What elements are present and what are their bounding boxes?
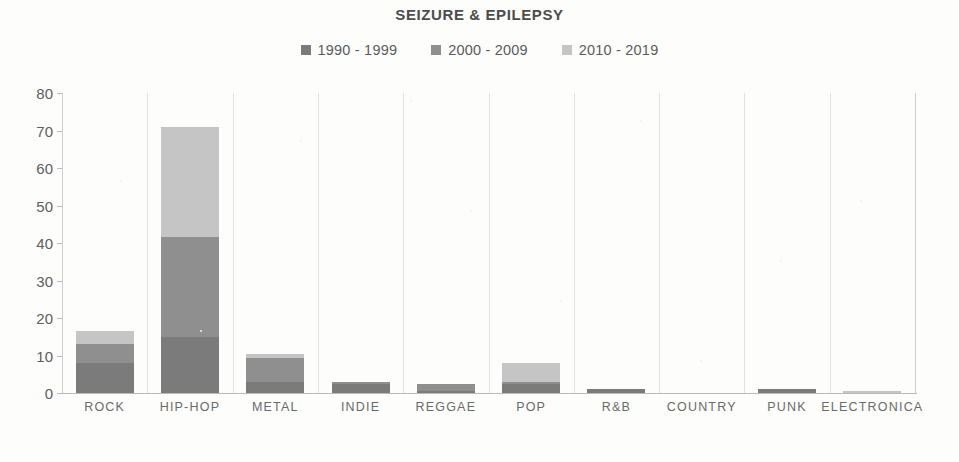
x-axis-label-rock: ROCK [84, 400, 125, 414]
gridline-vertical [659, 93, 660, 393]
bar-r-b[interactable] [587, 389, 645, 393]
gridline-vertical [744, 93, 745, 393]
chart-legend: 1990 - 1999 2000 - 2009 2010 - 2019 [0, 42, 959, 58]
y-axis-tick-mark [57, 93, 62, 94]
x-axis-label-hip-hop: HIP-HOP [160, 400, 221, 414]
y-axis-tick-mark [57, 393, 62, 394]
y-axis-tick-mark [57, 356, 62, 357]
bar-pop[interactable] [502, 363, 560, 393]
plot-area [62, 93, 915, 393]
gridline-vertical [233, 93, 234, 393]
x-axis-label-pop: POP [516, 400, 546, 414]
legend-swatch-icon [431, 45, 441, 55]
y-axis-tick-label: 10 [13, 347, 53, 364]
bar-segment [246, 358, 304, 382]
y-axis-tick-label: 70 [13, 122, 53, 139]
gridline-vertical [830, 93, 831, 393]
x-axis-label-country: COUNTRY [667, 400, 737, 414]
bar-segment [502, 382, 560, 384]
bar-segment [161, 337, 219, 393]
y-axis-tick-label: 80 [13, 85, 53, 102]
bar-segment [332, 382, 390, 384]
bar-segment [587, 389, 645, 393]
legend-label: 1990 - 1999 [318, 42, 398, 58]
x-axis-label-r-b: R&B [602, 400, 631, 414]
y-axis-tick-mark [57, 281, 62, 282]
y-axis-tick-label: 50 [13, 197, 53, 214]
bar-segment [76, 363, 134, 393]
gridline-vertical [147, 93, 148, 393]
gridline-vertical [489, 93, 490, 393]
bar-hip-hop[interactable] [161, 127, 219, 393]
y-axis-tick-mark [57, 206, 62, 207]
bar-segment [246, 382, 304, 393]
plot-right-border [915, 93, 916, 394]
y-axis-tick-label: 20 [13, 310, 53, 327]
bar-segment [76, 344, 134, 363]
x-axis-label-indie: INDIE [341, 400, 380, 414]
chart-title: SEIZURE & EPILEPSY [0, 6, 959, 23]
bar-segment [843, 391, 901, 393]
y-axis-tick-mark [57, 168, 62, 169]
chart-container: SEIZURE & EPILEPSY 1990 - 1999 2000 - 20… [0, 0, 959, 462]
y-axis-tick-label: 30 [13, 272, 53, 289]
bar-segment [161, 237, 219, 336]
bar-segment [417, 384, 475, 392]
gridline-vertical [318, 93, 319, 393]
legend-swatch-icon [301, 45, 311, 55]
y-axis-tick-label: 60 [13, 160, 53, 177]
bar-reggae[interactable] [417, 384, 475, 393]
bar-segment [76, 331, 134, 344]
legend-label: 2000 - 2009 [448, 42, 528, 58]
legend-item-1990-1999[interactable]: 1990 - 1999 [301, 42, 398, 58]
bar-segment [417, 391, 475, 393]
bar-segment [246, 354, 304, 359]
legend-item-2000-2009[interactable]: 2000 - 2009 [431, 42, 528, 58]
bar-metal[interactable] [246, 354, 304, 393]
bar-electronica[interactable] [843, 391, 901, 393]
y-axis-tick-label: 40 [13, 235, 53, 252]
x-axis-label-electronica: ELECTRONICA [821, 400, 923, 414]
x-axis-line [62, 393, 917, 394]
x-axis-label-punk: PUNK [767, 400, 807, 414]
y-axis-tick-mark [57, 243, 62, 244]
x-axis-label-reggae: REGGAE [416, 400, 477, 414]
bar-segment [758, 389, 816, 393]
bar-indie[interactable] [332, 382, 390, 393]
y-axis-tick-mark [57, 318, 62, 319]
bar-segment [502, 384, 560, 393]
bar-rock[interactable] [76, 331, 134, 393]
bar-segment [502, 363, 560, 382]
legend-swatch-icon [562, 45, 572, 55]
bar-segment [161, 127, 219, 238]
legend-item-2010-2019[interactable]: 2010 - 2019 [562, 42, 659, 58]
legend-label: 2010 - 2019 [579, 42, 659, 58]
bar-punk[interactable] [758, 389, 816, 393]
x-axis-label-metal: METAL [252, 400, 299, 414]
bar-segment [332, 384, 390, 393]
gridline-vertical [403, 93, 404, 393]
y-axis-tick-label: 0 [13, 385, 53, 402]
gridline-vertical [574, 93, 575, 393]
y-axis-tick-mark [57, 131, 62, 132]
